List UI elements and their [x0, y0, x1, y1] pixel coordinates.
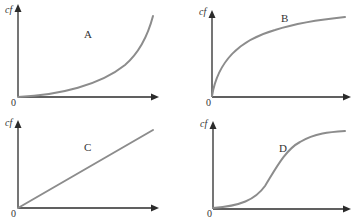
figure-four-panel: cf 0 A cf 0 B cf 0 C cf 0 D: [0, 0, 352, 217]
y-axis-arrow-icon: [15, 120, 22, 128]
origin-label-b: 0: [206, 97, 211, 108]
y-axis-arrow-icon: [210, 121, 217, 129]
y-axis-label-b: cf: [199, 6, 207, 17]
y-axis-arrow-icon: [209, 10, 216, 18]
y-axis-label-c: cf: [5, 117, 13, 128]
panel-label-c: C: [84, 141, 91, 153]
y-axis-label-d: cf: [200, 118, 208, 129]
origin-label-c: 0: [11, 208, 16, 217]
x-axis-arrow-icon: [151, 94, 159, 101]
x-axis-arrow-icon: [151, 205, 159, 212]
x-axis-arrow-icon: [343, 206, 351, 213]
panel-c: cf 0 C: [5, 117, 159, 217]
panel-label-d: D: [279, 142, 287, 154]
panel-a: cf 0 A: [5, 4, 159, 108]
panel-b: cf 0 B: [199, 6, 351, 108]
curve-b: [212, 17, 345, 96]
panel-d: cf 0 D: [200, 118, 351, 217]
panel-label-a: A: [84, 28, 92, 40]
x-axis-arrow-icon: [343, 94, 351, 101]
origin-label-d: 0: [207, 208, 212, 217]
panel-label-b: B: [281, 12, 288, 24]
y-axis-label-a: cf: [5, 4, 13, 15]
y-axis-arrow-icon: [15, 4, 22, 12]
origin-label-a: 0: [11, 97, 16, 108]
